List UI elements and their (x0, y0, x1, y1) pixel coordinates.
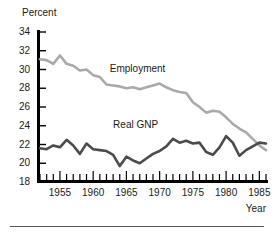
y-tick-label: 32 (14, 46, 30, 56)
axes (37, 30, 268, 182)
y-tick-label: 22 (14, 140, 30, 150)
y-tick-label: 20 (14, 158, 30, 168)
x-tick-marks (40, 171, 266, 180)
y-tick-label: 26 (14, 102, 30, 112)
y-tick-label: 18 (14, 177, 30, 187)
y-tick-label: 30 (14, 65, 30, 75)
x-tick-label: 1965 (111, 188, 141, 198)
series-annotation-real-gnp: Real GNP (113, 119, 158, 130)
y-tick-label: 24 (14, 121, 30, 131)
x-tick-label: 1960 (78, 188, 108, 198)
series-line-real-gnp (40, 136, 266, 166)
x-tick-label: 1975 (178, 188, 208, 198)
x-tick-label: 1980 (211, 188, 241, 198)
series-annotation-employment: Employment (110, 63, 166, 74)
y-tick-label: 34 (14, 27, 30, 37)
footer-divider (10, 226, 264, 227)
x-tick-label: 1970 (145, 188, 175, 198)
plot-area (0, 0, 274, 234)
y-tick-marks (40, 32, 46, 182)
y-tick-label: 28 (14, 83, 30, 93)
chart-figure: Percent Year 343230282624222018 19551960… (0, 0, 274, 234)
x-tick-label: 1985 (244, 188, 274, 198)
x-tick-label: 1955 (45, 188, 75, 198)
